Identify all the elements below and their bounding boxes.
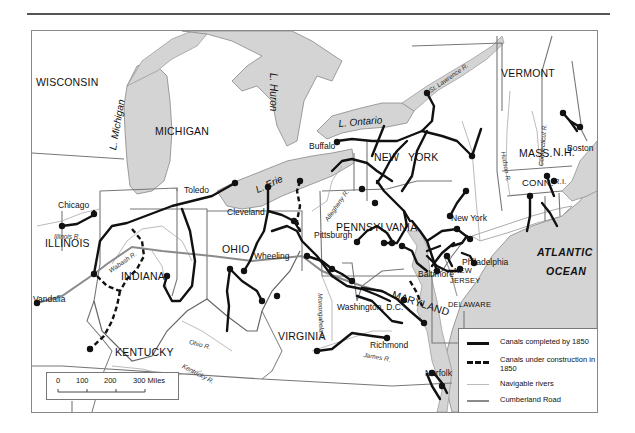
scale-bar-ruler bbox=[47, 373, 178, 399]
state-label-ohio: OHIO bbox=[222, 244, 250, 255]
city-label-cleveland: Cleveland bbox=[227, 208, 265, 217]
legend-label: Navigable rivers bbox=[500, 380, 598, 389]
state-label-conn: CONN. bbox=[522, 178, 554, 188]
state-label-new-jersey-1: NEW bbox=[454, 267, 472, 275]
map-frame: WISCONSIN MICHIGAN ILLINOIS INDIANA OHIO… bbox=[31, 30, 598, 413]
city-label-baltimore: Baltimore bbox=[418, 270, 454, 279]
state-label-new: NEW bbox=[374, 152, 399, 163]
legend-label: Cumberland Road bbox=[500, 396, 598, 405]
state-label-kentucky: KENTUCKY bbox=[115, 347, 174, 358]
ocean-label-ocean: OCEAN bbox=[546, 266, 586, 277]
legend-item-navigable-rivers: Navigable rivers bbox=[459, 379, 598, 393]
river-label-monongahela: Monongahela R. bbox=[317, 293, 325, 341]
scale-bar: 0 100 200 300 Miles bbox=[46, 372, 179, 400]
city-label-buffalo: Buffalo bbox=[309, 142, 335, 151]
city-label-boston: Boston bbox=[567, 144, 593, 153]
legend-swatch-road bbox=[467, 400, 489, 402]
state-label-michigan: MICHIGAN bbox=[155, 126, 209, 137]
legend-label: Canals under construction in 1850 bbox=[500, 356, 598, 373]
city-label-vandalia: Vandalia bbox=[33, 295, 65, 304]
lake-label-huron: L. Huron bbox=[268, 73, 278, 111]
map-legend: Canals completed by 1850 Canals under co… bbox=[458, 328, 598, 413]
state-label-new-jersey-2: JERSEY bbox=[450, 277, 480, 285]
state-label-wisconsin: WISCONSIN bbox=[36, 77, 98, 88]
state-label-indiana: INDIANA bbox=[121, 271, 165, 282]
top-rule bbox=[27, 13, 610, 15]
legend-label: Canals completed by 1850 bbox=[500, 338, 598, 347]
city-label-toledo: Toledo bbox=[184, 186, 209, 195]
legend-item-canals-completed: Canals completed by 1850 bbox=[459, 337, 598, 351]
cumberland-road bbox=[37, 247, 387, 303]
state-label-delaware: DELAWARE bbox=[448, 301, 491, 309]
legend-swatch-dashed bbox=[467, 361, 489, 364]
city-label-washington: Washington, D.C. bbox=[337, 303, 403, 312]
city-label-new-york: New York bbox=[451, 214, 487, 223]
city-label-pittsburgh: Pittsburgh bbox=[314, 231, 352, 240]
legend-item-cumberland-road: Cumberland Road bbox=[459, 395, 598, 409]
state-label-mass: MASS. bbox=[519, 148, 553, 159]
state-label-ri: R.I. bbox=[554, 178, 566, 186]
state-label-york: YORK bbox=[408, 152, 439, 163]
ocean-label-atlantic: ATLANTIC bbox=[537, 247, 593, 258]
legend-item-canals-under-construction: Canals under construction in 1850 bbox=[459, 356, 598, 370]
legend-swatch-solid bbox=[467, 342, 489, 345]
city-label-richmond: Richmond bbox=[370, 341, 408, 350]
city-label-wheeling: Wheeling bbox=[254, 252, 289, 261]
city-label-chicago: Chicago bbox=[58, 201, 89, 210]
river-label-illinois: Illinois R. bbox=[54, 234, 80, 241]
legend-swatch-thin bbox=[467, 384, 489, 385]
kentucky-east bbox=[262, 311, 282, 379]
state-label-vermont: VERMONT bbox=[501, 68, 555, 79]
city-label-norfolk: Norfolk bbox=[425, 369, 452, 378]
city-label-philadelphia: Philadelphia bbox=[462, 258, 508, 267]
